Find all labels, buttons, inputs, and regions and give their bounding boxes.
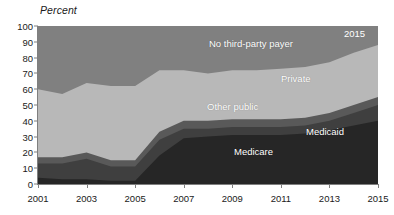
x-axis-tick-mark bbox=[329, 184, 330, 188]
x-axis-tick-label: 2015 bbox=[367, 193, 388, 204]
x-axis-tick-mark bbox=[38, 184, 39, 188]
x-axis-tick-mark bbox=[281, 184, 282, 188]
x-axis-tick-label: 2001 bbox=[27, 193, 48, 204]
x-axis-tick-label: 2011 bbox=[271, 193, 291, 204]
series-label-medicare: Medicare bbox=[234, 146, 273, 157]
plot-area: No third-party payerPrivateOther publicM… bbox=[38, 26, 378, 184]
x-axis-tick-mark bbox=[378, 184, 379, 188]
y-axis-tick-label: 60 bbox=[22, 84, 33, 95]
series-label-other-public: Other public bbox=[207, 101, 258, 112]
series-label-private: Private bbox=[281, 73, 311, 84]
y-axis-tick-label: 30 bbox=[22, 131, 33, 142]
y-axis-tick-label: 0 bbox=[28, 179, 33, 190]
y-axis-tick-label: 10 bbox=[22, 163, 33, 174]
x-axis-tick-mark bbox=[135, 184, 136, 188]
x-axis-tick-mark bbox=[184, 184, 185, 188]
x-axis-tick-label: 2013 bbox=[319, 193, 340, 204]
y-axis-tick-label: 70 bbox=[22, 68, 33, 79]
x-axis-tick-label: 2007 bbox=[173, 193, 194, 204]
y-axis-tick-group: 1009080706050403020100 bbox=[0, 26, 38, 184]
series-label-no-third-party-payer: No third-party payer bbox=[209, 38, 293, 49]
y-axis-tick-label: 90 bbox=[22, 36, 33, 47]
y-axis-tick-label: 100 bbox=[17, 21, 33, 32]
stacked-area-chart: Percent 1009080706050403020100 No third-… bbox=[0, 0, 394, 215]
x-axis-tick-label: 2005 bbox=[125, 193, 146, 204]
y-axis-tick-label: 40 bbox=[22, 115, 33, 126]
x-axis-tick-label: 2009 bbox=[222, 193, 243, 204]
x-axis-tick-group: 20012003200520072009201120132015 bbox=[38, 184, 378, 214]
y-axis-tick-label: 50 bbox=[22, 100, 33, 111]
y-axis-tick-label: 80 bbox=[22, 52, 33, 63]
y-axis-title: Percent bbox=[40, 4, 77, 16]
end-year-label: 2015 bbox=[344, 28, 365, 39]
y-axis-tick-label: 20 bbox=[22, 147, 33, 158]
series-label-medicaid: Medicaid bbox=[306, 126, 344, 137]
x-axis-tick-mark bbox=[232, 184, 233, 188]
x-axis-tick-label: 2003 bbox=[76, 193, 97, 204]
x-axis-tick-mark bbox=[87, 184, 88, 188]
